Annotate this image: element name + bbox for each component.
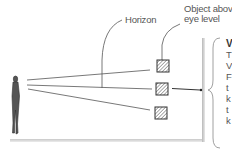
- side-text-heading: V: [226, 38, 232, 49]
- object-above-label-line2: eye level: [184, 14, 232, 24]
- side-text-line: T: [226, 49, 232, 60]
- horizon-label: Horizon: [125, 15, 156, 25]
- side-text-line: k: [226, 93, 232, 104]
- side-text-line: V: [226, 60, 232, 71]
- side-text-line: t: [226, 82, 232, 93]
- object-below-eye-level: [155, 107, 167, 119]
- sight-lines: [27, 70, 152, 110]
- curly-brace: [208, 38, 220, 148]
- horizon-leader-line: [102, 20, 122, 88]
- side-text-line: t: [226, 104, 232, 115]
- object-leader-line: [162, 24, 180, 60]
- object-above-eye-level: [157, 60, 169, 72]
- side-text-line: F: [226, 71, 232, 82]
- side-text-line: k: [226, 115, 232, 126]
- object-at-eye-level: [156, 83, 168, 95]
- arrow-line: [172, 89, 200, 91]
- viewer-figure-icon: [12, 76, 20, 134]
- arrow-dot: [200, 89, 202, 91]
- object-above-label: Object above eye level: [184, 4, 232, 24]
- side-text-column: V T V F t k t k: [226, 38, 232, 126]
